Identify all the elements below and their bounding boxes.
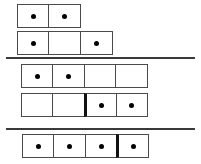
strip-row-2 bbox=[17, 31, 113, 55]
dot-marker-icon bbox=[131, 144, 136, 149]
dot-marker-icon bbox=[99, 144, 104, 149]
unit-cell-empty[interactable] bbox=[21, 93, 54, 117]
dot-marker-icon bbox=[94, 41, 99, 46]
unit-cell-empty[interactable] bbox=[115, 64, 148, 88]
unit-cell-filled[interactable] bbox=[17, 4, 50, 28]
dot-marker-icon bbox=[129, 103, 134, 108]
unit-cell-filled[interactable] bbox=[48, 4, 81, 28]
unit-cell-filled[interactable] bbox=[52, 64, 85, 88]
strip-row-1 bbox=[17, 4, 81, 28]
unit-cell-filled[interactable] bbox=[84, 93, 117, 117]
dot-marker-icon bbox=[62, 14, 67, 19]
unit-cell-filled[interactable] bbox=[17, 31, 50, 55]
dot-marker-icon bbox=[31, 14, 36, 19]
unit-cell-filled[interactable] bbox=[116, 134, 149, 158]
unit-cell-filled[interactable] bbox=[85, 134, 118, 158]
dot-marker-icon bbox=[66, 74, 71, 79]
unit-cell-filled[interactable] bbox=[53, 134, 86, 158]
separator-2 bbox=[6, 128, 195, 130]
strip-row-4 bbox=[21, 93, 148, 117]
dot-marker-icon bbox=[99, 103, 104, 108]
unit-cell-empty[interactable] bbox=[84, 64, 117, 88]
dot-marker-icon bbox=[31, 41, 36, 46]
strip-row-3 bbox=[21, 64, 148, 88]
separator-1 bbox=[6, 57, 195, 59]
unit-cell-empty[interactable] bbox=[48, 31, 81, 55]
unit-cell-filled[interactable] bbox=[80, 31, 113, 55]
strip-row-5 bbox=[22, 134, 149, 158]
dot-marker-icon bbox=[67, 144, 72, 149]
unit-cell-filled[interactable] bbox=[21, 64, 54, 88]
diagram-canvas bbox=[0, 0, 201, 164]
unit-cell-filled[interactable] bbox=[22, 134, 55, 158]
dot-marker-icon bbox=[35, 74, 40, 79]
unit-cell-filled[interactable] bbox=[115, 93, 148, 117]
dot-marker-icon bbox=[36, 144, 41, 149]
unit-cell-empty[interactable] bbox=[52, 93, 85, 117]
